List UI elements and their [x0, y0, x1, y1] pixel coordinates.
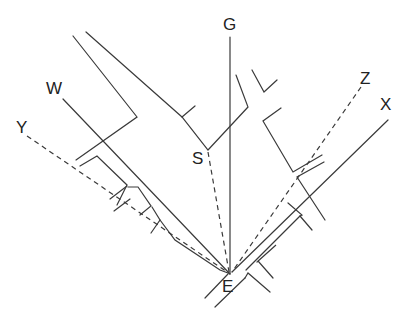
label-x: X [380, 95, 391, 114]
label-z: Z [360, 69, 370, 88]
labels-layer: G W Y Z X S E [0, 0, 403, 320]
label-g: G [223, 15, 236, 34]
label-s: S [192, 149, 203, 168]
label-w: W [46, 79, 62, 98]
label-e: E [222, 277, 233, 296]
label-y: Y [16, 118, 27, 137]
